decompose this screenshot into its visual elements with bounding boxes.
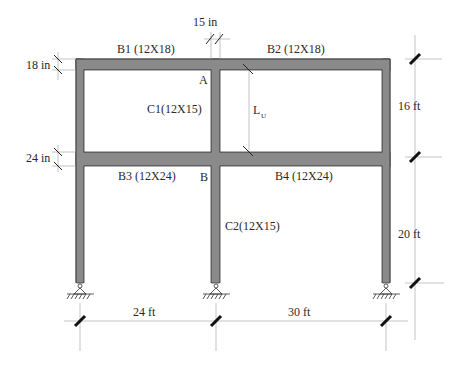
beam-depth-dimensions (52, 52, 76, 172)
upper-story-height-label: 16 ft (398, 99, 421, 113)
right-bay-width-label: 30 ft (288, 305, 311, 319)
left-bay-width-label: 24 ft (133, 305, 156, 319)
column-width-label: 15 in (193, 15, 217, 29)
pin-supports (67, 284, 400, 299)
column-c2-label: C2(12X15) (225, 219, 280, 233)
first-beam-depth-label: 24 in (26, 151, 50, 165)
beam-b4-label: B4 (12X24) (275, 169, 333, 183)
story-height-dimension (405, 35, 444, 340)
joint-a-label: A (199, 73, 208, 87)
beam-b3-label: B3 (12X24) (118, 169, 176, 183)
pin-support-middle (203, 284, 230, 299)
column-c1-label: C1(12X15) (147, 102, 202, 116)
unbraced-length-subscript: U (261, 112, 266, 120)
top-beam-depth-label: 18 in (26, 58, 50, 72)
frame-diagram: B1 (12X18) B2 (12X18) B3 (12X24) B4 (12X… (0, 0, 465, 367)
lower-story-height-label: 20 ft (398, 227, 421, 241)
beam-b2-label: B2 (12X18) (267, 42, 325, 56)
pin-support-right (373, 284, 400, 299)
pin-support-left (67, 284, 94, 299)
joint-b-label: B (200, 170, 208, 184)
unbraced-length-label: L (253, 103, 260, 117)
beam-b1-label: B1 (12X18) (117, 42, 175, 56)
bay-width-dimension (64, 303, 408, 351)
column-width-dimension (204, 32, 230, 59)
